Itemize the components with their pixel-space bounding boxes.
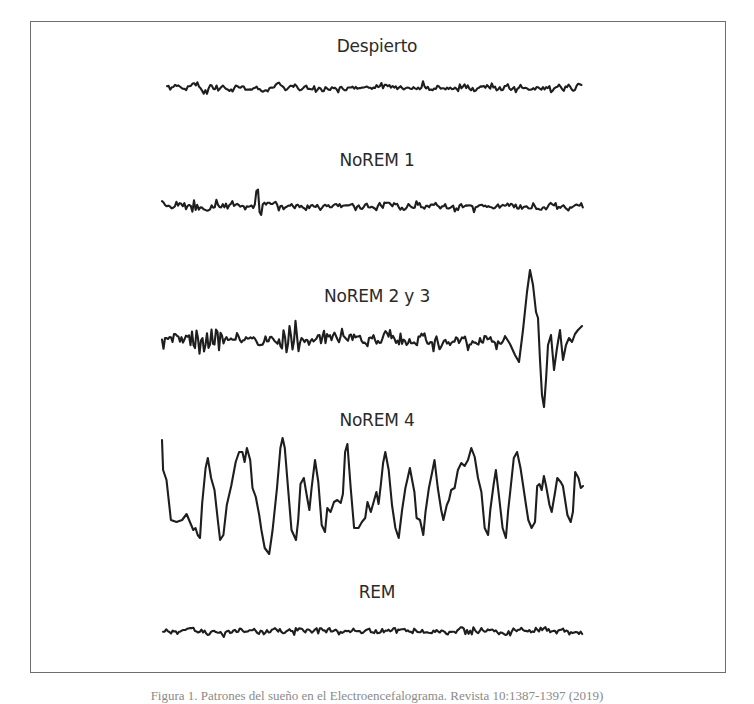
eeg-trace-despierto	[167, 81, 581, 94]
eeg-trace-norem1	[162, 190, 583, 215]
eeg-trace-rem	[163, 627, 582, 637]
eeg-trace-norem23	[162, 270, 582, 407]
eeg-trace-norem4	[162, 438, 583, 554]
figure-caption: Figura 1. Patrones del sueño en el Elect…	[0, 688, 754, 704]
